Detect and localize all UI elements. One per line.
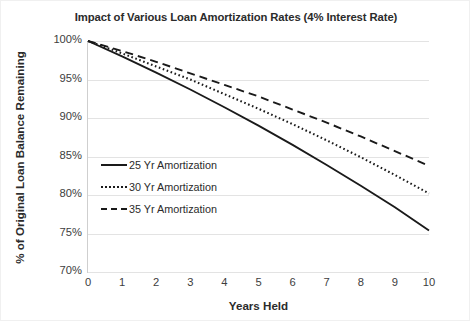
legend-item-25yr: 25 Yr Amortization <box>101 153 281 175</box>
y-axis-tick-label: 90% <box>34 110 82 122</box>
gridline <box>88 272 429 273</box>
x-axis-tick-label: 0 <box>73 276 103 288</box>
legend-item-35yr: 35 Yr Amortization <box>101 197 281 219</box>
y-axis-tick-label: 85% <box>34 149 82 161</box>
x-axis-tick-label: 10 <box>414 276 444 288</box>
legend-item-30yr: 30 Yr Amortization <box>101 175 281 197</box>
x-axis-tick-label: 9 <box>380 276 410 288</box>
x-axis-tick-label: 7 <box>312 276 342 288</box>
chart-container: Impact of Various Loan Amortization Rate… <box>0 0 470 321</box>
x-axis-tick-label: 3 <box>175 276 205 288</box>
chart-title: Impact of Various Loan Amortization Rate… <box>1 11 470 23</box>
y-axis-tick-label: 100% <box>34 33 82 45</box>
x-axis-tick-label: 6 <box>278 276 308 288</box>
y-axis-tick-label: 75% <box>34 226 82 238</box>
legend-swatch-dashed-icon <box>101 203 127 214</box>
legend-label-35yr: 35 Yr Amortization <box>129 203 217 215</box>
y-axis-title: % of Original Loan Balance Remaining <box>13 33 26 283</box>
x-axis-tick-label: 4 <box>209 276 239 288</box>
x-axis-tick-label: 2 <box>141 276 171 288</box>
x-axis-tick-label: 8 <box>346 276 376 288</box>
y-axis-tick-label: 70% <box>34 264 82 276</box>
x-axis-title: Years Held <box>88 299 429 312</box>
y-axis-tick-label: 80% <box>34 187 82 199</box>
chart-legend: 25 Yr Amortization 30 Yr Amortization 35… <box>101 153 281 219</box>
x-axis-tick-label: 5 <box>244 276 274 288</box>
legend-swatch-dotted-icon <box>101 181 127 192</box>
x-axis-tick-label: 1 <box>107 276 137 288</box>
y-axis-tick-label: 95% <box>34 72 82 84</box>
series-line <box>88 41 429 166</box>
legend-label-25yr: 25 Yr Amortization <box>129 159 217 171</box>
legend-swatch-solid-icon <box>101 159 127 170</box>
legend-label-30yr: 30 Yr Amortization <box>129 181 217 193</box>
